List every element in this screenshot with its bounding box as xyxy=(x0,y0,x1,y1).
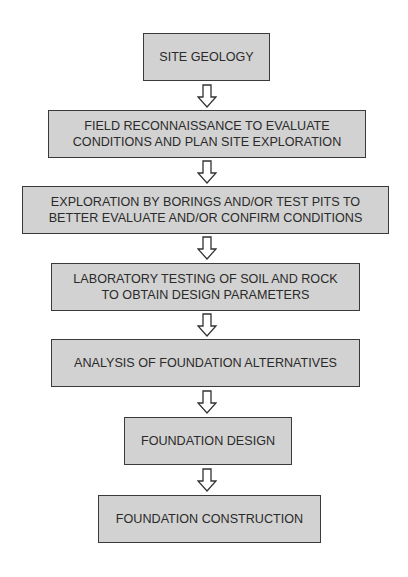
step-foundation-construction: FOUNDATION CONSTRUCTION xyxy=(98,495,321,543)
step-analysis: ANALYSIS OF FOUNDATION ALTERNATIVES xyxy=(51,339,360,387)
down-arrow-icon xyxy=(197,160,217,184)
step-site-geology: SITE GEOLOGY xyxy=(143,33,270,81)
step-exploration: EXPLORATION BY BORINGS AND/OR TEST PITS … xyxy=(22,186,389,234)
step-label: EXPLORATION BY BORINGS AND/OR TEST PITS … xyxy=(49,194,363,226)
step-label: FOUNDATION DESIGN xyxy=(141,433,275,449)
step-laboratory-testing: LABORATORY TESTING OF SOIL AND ROCK TO O… xyxy=(51,263,360,311)
down-arrow-icon xyxy=(197,84,217,108)
step-field-reconnaissance: FIELD RECONNAISSANCE TO EVALUATE CONDITI… xyxy=(48,110,366,158)
down-arrow-icon xyxy=(197,390,217,414)
step-label: FOUNDATION CONSTRUCTION xyxy=(116,511,303,527)
step-label: SITE GEOLOGY xyxy=(159,49,253,65)
step-label: FIELD RECONNAISSANCE TO EVALUATE CONDITI… xyxy=(73,118,341,150)
down-arrow-icon xyxy=(197,468,217,492)
down-arrow-icon xyxy=(197,236,217,260)
step-label: ANALYSIS OF FOUNDATION ALTERNATIVES xyxy=(74,355,337,371)
step-label: LABORATORY TESTING OF SOIL AND ROCK TO O… xyxy=(73,271,337,303)
step-foundation-design: FOUNDATION DESIGN xyxy=(124,417,292,465)
down-arrow-icon xyxy=(197,313,217,337)
